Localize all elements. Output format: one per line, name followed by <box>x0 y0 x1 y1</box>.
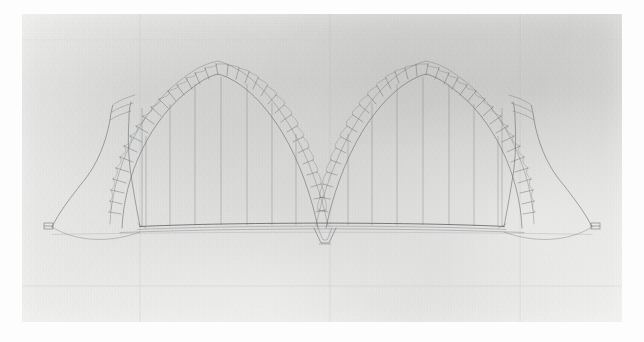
right-arch-voussoir-joints <box>318 64 535 212</box>
scanned-drawing-viewport <box>0 0 644 342</box>
right-spandrel-columns <box>348 77 498 226</box>
right-arch-voussoirs <box>318 64 535 214</box>
sheet-guide-lines <box>22 14 622 322</box>
bridge-elevation-drawing <box>0 0 644 342</box>
left-abutment <box>44 95 142 239</box>
centre-pier <box>314 228 336 244</box>
right-abutment <box>502 95 600 239</box>
deck-roadway <box>52 223 592 234</box>
left-arch-voussoir-joints <box>109 64 326 212</box>
left-arch-voussoirs <box>109 64 326 214</box>
left-spandrel-columns <box>146 77 296 226</box>
